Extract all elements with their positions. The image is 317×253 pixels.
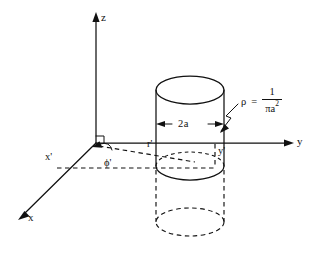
phi-prime-label: ϕ' — [104, 158, 111, 169]
density-numerator: 1 — [267, 87, 278, 99]
density-fraction: 1 πa2 — [262, 87, 282, 114]
diagram-canvas — [0, 0, 317, 253]
density-equation: ρ = 1 πa2 — [241, 88, 282, 115]
y-axis-label: y — [297, 136, 303, 147]
cylinder-lower-walls — [156, 170, 224, 222]
x-axis-label: x — [28, 212, 34, 223]
density-symbol: ρ — [241, 96, 246, 107]
cylinder-plane-intersection-hidden — [156, 152, 224, 166]
density-equals-sign: = — [251, 96, 257, 107]
cylinder-bottom-ellipse — [156, 208, 224, 236]
diameter-label: 2a — [178, 119, 189, 130]
diameter-dimension-arrows — [156, 121, 224, 127]
z-axis — [92, 12, 99, 143]
cylinder-upper-walls — [156, 90, 224, 166]
y-prime-label: y' — [218, 146, 225, 157]
cylinder-top-ellipse — [156, 76, 224, 104]
density-denominator-base: πa — [265, 102, 275, 113]
z-axis-label: z — [101, 12, 106, 23]
figure-root: z y x x' ϕ' r' y' 2a ρ = 1 πa2 — [0, 0, 317, 253]
x-prime-label: x' — [45, 152, 52, 163]
density-denominator-exponent: 2 — [275, 99, 279, 108]
cylinder-plane-intersection-visible — [156, 166, 224, 180]
x-axis — [18, 143, 96, 220]
density-denominator: πa2 — [262, 100, 282, 114]
y-axis — [96, 139, 294, 146]
density-leader-line — [220, 104, 238, 133]
r-prime-label: r' — [147, 139, 152, 150]
origin-corner-mark — [96, 136, 104, 143]
